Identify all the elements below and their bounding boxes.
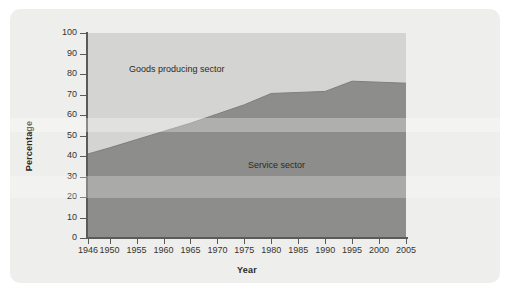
x-tick-1950 bbox=[110, 239, 111, 244]
y-tick-20 bbox=[80, 197, 86, 198]
y-tick-label-20: 20 bbox=[52, 192, 77, 202]
y-tick-label-text: 80 bbox=[52, 69, 77, 78]
y-tick-10 bbox=[80, 218, 86, 219]
y-tick-90 bbox=[80, 54, 86, 55]
y-tick-label-text: 40 bbox=[52, 151, 77, 160]
x-tick-1946 bbox=[88, 239, 89, 244]
y-tick-label-90: 90 bbox=[52, 49, 77, 59]
y-tick-50 bbox=[80, 136, 86, 137]
x-axis-title: Year bbox=[88, 265, 406, 275]
y-tick-30 bbox=[80, 177, 86, 178]
y-tick-label-text: 0 bbox=[52, 233, 77, 242]
y-tick-40 bbox=[80, 156, 86, 157]
y-axis-line bbox=[86, 32, 88, 239]
x-tick-2005 bbox=[406, 239, 407, 244]
y-tick-label-80: 80 bbox=[52, 69, 77, 79]
x-tick-label-text: 2005 bbox=[386, 246, 426, 255]
y-tick-label-text: 90 bbox=[52, 49, 77, 58]
x-tick-1980 bbox=[271, 239, 272, 244]
x-tick-1985 bbox=[298, 239, 299, 244]
y-tick-70 bbox=[80, 95, 86, 96]
x-axis-line bbox=[86, 237, 408, 239]
y-tick-label-40: 40 bbox=[52, 151, 77, 161]
annotation-service-sector: Service sector bbox=[248, 161, 305, 170]
x-tick-1960 bbox=[164, 239, 165, 244]
y-tick-100 bbox=[80, 33, 86, 34]
y-tick-label-text: 70 bbox=[52, 90, 77, 99]
x-tick-1970 bbox=[217, 239, 218, 244]
y-tick-60 bbox=[80, 115, 86, 116]
x-tick-1955 bbox=[137, 239, 138, 244]
y-tick-label-text: 50 bbox=[52, 131, 77, 140]
y-tick-label-text: 60 bbox=[52, 110, 77, 119]
y-tick-label-text: 100 bbox=[52, 28, 77, 37]
y-tick-label-text: 10 bbox=[52, 213, 77, 222]
y-axis-title: Percentage bbox=[22, 108, 36, 184]
y-tick-label-text: 20 bbox=[52, 192, 77, 201]
y-axis-title-label: Percentage bbox=[24, 121, 34, 172]
y-tick-label-60: 60 bbox=[52, 110, 77, 120]
x-tick-1990 bbox=[325, 239, 326, 244]
x-tick-label-2005: 2005 bbox=[386, 246, 426, 258]
y-tick-label-text: 30 bbox=[52, 172, 77, 181]
y-tick-label-30: 30 bbox=[52, 172, 77, 182]
x-tick-1965 bbox=[190, 239, 191, 244]
x-tick-1995 bbox=[352, 239, 353, 244]
y-tick-label-0: 0 bbox=[52, 233, 77, 243]
y-tick-label-70: 70 bbox=[52, 90, 77, 100]
chart-figure: 1009080706050403020100 19461950195519601… bbox=[0, 0, 510, 292]
annotation-goods-producing-sector: Goods producing sector bbox=[129, 65, 225, 74]
y-tick-label-100: 100 bbox=[52, 28, 77, 38]
y-tick-0 bbox=[80, 238, 86, 239]
y-tick-label-10: 10 bbox=[52, 213, 77, 223]
x-tick-1975 bbox=[244, 239, 245, 244]
x-tick-2000 bbox=[379, 239, 380, 244]
y-tick-label-50: 50 bbox=[52, 131, 77, 141]
y-tick-80 bbox=[80, 74, 86, 75]
